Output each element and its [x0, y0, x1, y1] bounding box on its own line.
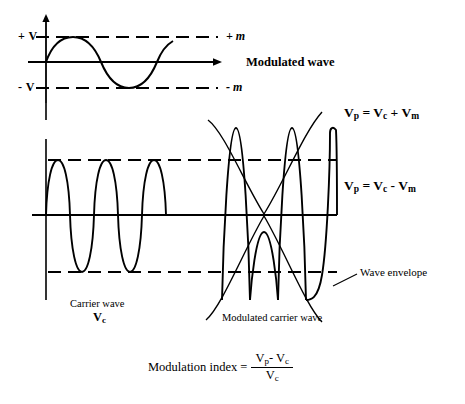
num-term-b: V: [276, 351, 285, 365]
eq-max-term1: V: [373, 105, 383, 120]
modulation-index-text: Modulation index =: [148, 360, 251, 375]
eq-min-term2: V: [398, 178, 408, 193]
eq-max-equals: =: [362, 105, 370, 120]
eq-min-lhs-sub: p: [354, 184, 359, 194]
modulated-carrier-cycle-3: [278, 128, 306, 300]
fraction-numerator: Vp- Vc: [251, 352, 293, 368]
eq-max-term1-sub: c: [383, 111, 387, 121]
top-positive-voltage-label: + V: [18, 29, 38, 44]
eq-min-term1: V: [373, 178, 383, 193]
carrier-symbol-label: Vc: [93, 310, 106, 325]
den-term-sub: c: [275, 373, 279, 383]
top-negative-m-label: - m: [226, 80, 242, 95]
num-term-b-sub: c: [285, 356, 289, 366]
eq-min-term1-sub: c: [383, 184, 387, 194]
wave-envelope-label: Wave envelope: [360, 266, 427, 278]
modulated-carrier-cycle-1: [222, 128, 250, 300]
den-term: V: [266, 368, 275, 382]
modulated-wave-caption: Modulated wave: [246, 55, 335, 70]
carrier-symbol: V: [93, 310, 102, 324]
carrier-wave-path: [46, 160, 166, 272]
modulation-index-fraction: Vp- Vc Vc: [251, 352, 293, 384]
peak-minimum-equation: Vp = Vc - Vm: [344, 178, 416, 194]
top-panel-group: [28, 14, 222, 103]
modulated-carrier-cycle-2: [250, 232, 278, 300]
eq-min-operator: -: [391, 178, 396, 193]
upper-envelope-curve: [208, 112, 322, 214]
top-negative-voltage-label: - V: [18, 80, 35, 95]
bottom-panel-group: [32, 103, 357, 322]
eq-max-term2-sub: m: [411, 111, 419, 121]
carrier-symbol-sub: c: [102, 315, 106, 325]
fraction-denominator: Vc: [262, 368, 283, 383]
modulated-carrier-caption: Modulated carrier wave: [222, 312, 322, 323]
am-modulation-diagram-page: + V - V + m - m Modulated wave Vp = Vc +…: [0, 0, 465, 404]
eq-max-operator: +: [391, 105, 399, 120]
top-positive-m-label: + m: [226, 29, 245, 44]
eq-min-term2-sub: m: [408, 184, 416, 194]
carrier-wave-caption: Carrier wave: [70, 298, 125, 309]
num-operator: -: [269, 351, 273, 365]
peak-maximum-equation: Vp = Vc + Vm: [344, 105, 419, 121]
waveform-figure-canvas: [0, 0, 465, 404]
eq-max-term2: V: [401, 105, 411, 120]
eq-max-lhs-sub: p: [354, 111, 359, 121]
modulation-index-formula: Modulation index = Vp- Vc Vc: [148, 352, 293, 384]
modulated-carrier-cycle-4: [306, 128, 337, 300]
wave-envelope-leader-line: [333, 274, 357, 286]
top-y-axis-arrowhead: [42, 14, 49, 22]
eq-min-equals: =: [362, 178, 370, 193]
eq-max-lhs: V: [344, 105, 354, 120]
eq-min-lhs: V: [344, 178, 354, 193]
top-x-axis-arrowhead: [213, 58, 222, 66]
